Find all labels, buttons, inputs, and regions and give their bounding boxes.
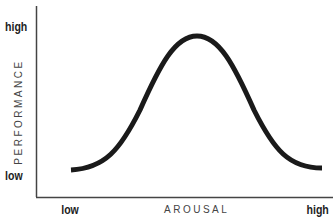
bell-curve-line [71,36,322,170]
y-axis-title: PERFORMANCE [13,59,24,164]
x-tick-high: high [307,203,329,217]
chart-plot-area [0,0,333,219]
y-tick-low: low [5,169,23,183]
performance-arousal-chart: high low PERFORMANCE low high AROUSAL [0,0,333,219]
y-tick-high: high [5,20,27,34]
x-tick-low: low [61,203,79,217]
x-axis-title: AROUSAL [164,204,229,215]
